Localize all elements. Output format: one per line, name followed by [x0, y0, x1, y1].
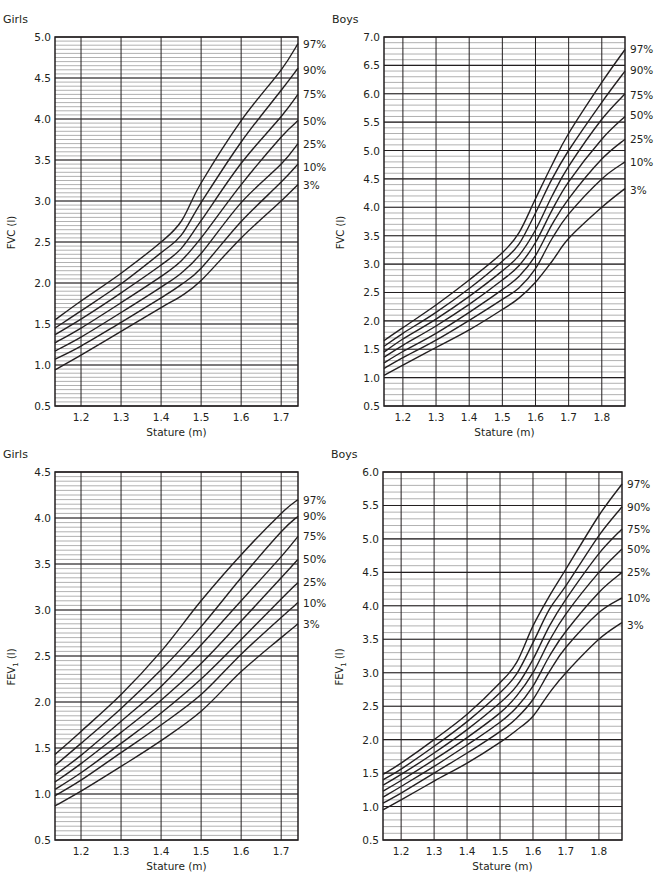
y-tick-label: 5.5 — [362, 499, 379, 511]
chart-title: Boys — [331, 448, 358, 461]
x-tick-label: 1.5 — [193, 845, 210, 857]
x-tick-label: 1.2 — [393, 845, 410, 857]
gridlines — [55, 37, 298, 406]
x-axis-label: Stature (m) — [474, 426, 534, 438]
x-tick-label: 1.5 — [494, 411, 511, 423]
x-tick-label: 1.2 — [73, 411, 90, 423]
y-tick-label: 0.5 — [363, 400, 380, 412]
percentile-label: 75% — [303, 88, 326, 100]
x-tick-label: 1.3 — [113, 411, 130, 423]
percentile-label: 50% — [303, 115, 326, 127]
x-axis-label: Stature (m) — [472, 860, 532, 872]
percentile-label: 50% — [303, 553, 326, 565]
percentile-label: 90% — [303, 64, 326, 76]
x-axis-label: Stature (m) — [146, 860, 206, 872]
spirometry-reference-charts: Girls0.51.01.52.02.53.03.54.04.55.01.21.… — [0, 0, 664, 881]
percentile-label: 75% — [627, 523, 650, 535]
y-tick-label: 7.0 — [363, 31, 380, 43]
y-tick-label: 3.0 — [362, 667, 379, 679]
y-axis-label: FVC (l) — [335, 216, 346, 249]
curve-p90 — [55, 68, 298, 328]
x-tick-label: 1.4 — [459, 845, 476, 857]
curve-p97 — [384, 50, 625, 341]
curve-p90 — [384, 71, 625, 346]
x-tick-label: 1.8 — [593, 411, 610, 423]
percentile-label: 90% — [630, 64, 653, 76]
x-tick-label: 1.6 — [525, 845, 542, 857]
gridlines — [383, 472, 622, 840]
y-tick-label: 3.5 — [34, 154, 51, 166]
y-tick-label: 2.0 — [34, 277, 51, 289]
boys-fev1-chart: Boys0.51.01.52.02.53.03.54.04.55.05.56.0… — [331, 448, 650, 872]
percentile-curves — [55, 44, 298, 370]
curve-p90 — [55, 516, 298, 765]
curve-p50 — [55, 121, 298, 343]
x-tick-label: 1.4 — [153, 845, 170, 857]
x-tick-label: 1.7 — [560, 411, 577, 423]
y-tick-label: 2.5 — [362, 700, 379, 712]
y-tick-label: 1.5 — [34, 318, 51, 330]
y-tick-label: 4.5 — [34, 466, 51, 478]
chart-title: Girls — [3, 13, 28, 26]
y-tick-label: 3.0 — [34, 604, 51, 616]
y-tick-label: 3.5 — [363, 230, 380, 242]
y-tick-label: 0.5 — [34, 400, 51, 412]
percentile-label: 50% — [630, 109, 653, 121]
girls-fev1-chart: Girls0.51.01.52.02.53.03.54.04.51.21.31.… — [3, 448, 326, 872]
x-tick-label: 1.5 — [193, 411, 210, 423]
y-tick-label: 6.0 — [363, 88, 380, 100]
y-tick-label: 2.0 — [362, 734, 379, 746]
x-tick-label: 1.7 — [273, 411, 290, 423]
y-tick-label: 3.0 — [363, 258, 380, 270]
percentile-label: 75% — [630, 89, 653, 101]
x-tick-label: 1.6 — [233, 411, 250, 423]
y-tick-label: 3.5 — [362, 633, 379, 645]
y-axis-label: FEV1 (l) — [334, 648, 348, 685]
percentile-label: 10% — [303, 161, 326, 173]
y-tick-label: 5.0 — [34, 31, 51, 43]
y-tick-label: 4.5 — [34, 72, 51, 84]
y-tick-label: 1.0 — [362, 801, 379, 813]
y-tick-label: 2.0 — [34, 696, 51, 708]
y-tick-label: 0.5 — [362, 834, 379, 846]
curve-p3 — [384, 189, 625, 376]
y-tick-label: 3.0 — [34, 195, 51, 207]
percentile-label: 10% — [627, 592, 650, 604]
curve-p97 — [383, 484, 622, 774]
y-tick-label: 1.5 — [34, 742, 51, 754]
chart-title: Girls — [3, 448, 28, 461]
percentile-label: 25% — [303, 576, 326, 588]
y-tick-label: 4.0 — [362, 600, 379, 612]
percentile-label: 25% — [630, 133, 653, 145]
plot-frame — [384, 37, 625, 406]
percentile-label: 97% — [627, 478, 650, 490]
x-tick-label: 1.3 — [426, 845, 443, 857]
x-tick-label: 1.2 — [73, 845, 90, 857]
y-tick-label: 4.5 — [362, 566, 379, 578]
percentile-label: 3% — [630, 184, 647, 196]
y-tick-label: 2.5 — [363, 286, 380, 298]
y-tick-label: 5.0 — [362, 533, 379, 545]
girls-fvc-chart: Girls0.51.01.52.02.53.03.54.04.55.01.21.… — [3, 13, 326, 438]
percentile-label: 90% — [303, 510, 326, 522]
percentile-label: 10% — [303, 597, 326, 609]
percentile-label: 25% — [627, 566, 650, 578]
y-tick-label: 4.0 — [34, 113, 51, 125]
percentile-curves — [383, 484, 622, 810]
y-tick-label: 2.5 — [34, 650, 51, 662]
percentile-label: 97% — [630, 43, 653, 55]
y-tick-label: 6.5 — [363, 59, 380, 71]
chart-title: Boys — [332, 13, 359, 26]
percentile-label: 3% — [303, 618, 320, 630]
curve-p50 — [383, 549, 622, 791]
x-tick-label: 1.4 — [461, 411, 478, 423]
y-tick-label: 4.5 — [363, 173, 380, 185]
percentile-label: 3% — [627, 619, 644, 631]
y-tick-label: 1.0 — [34, 359, 51, 371]
y-tick-label: 2.5 — [34, 236, 51, 248]
percentile-label: 50% — [627, 543, 650, 555]
y-tick-label: 1.5 — [362, 767, 379, 779]
y-tick-label: 5.5 — [363, 116, 380, 128]
y-tick-label: 4.0 — [34, 512, 51, 524]
y-tick-label: 1.0 — [34, 788, 51, 800]
